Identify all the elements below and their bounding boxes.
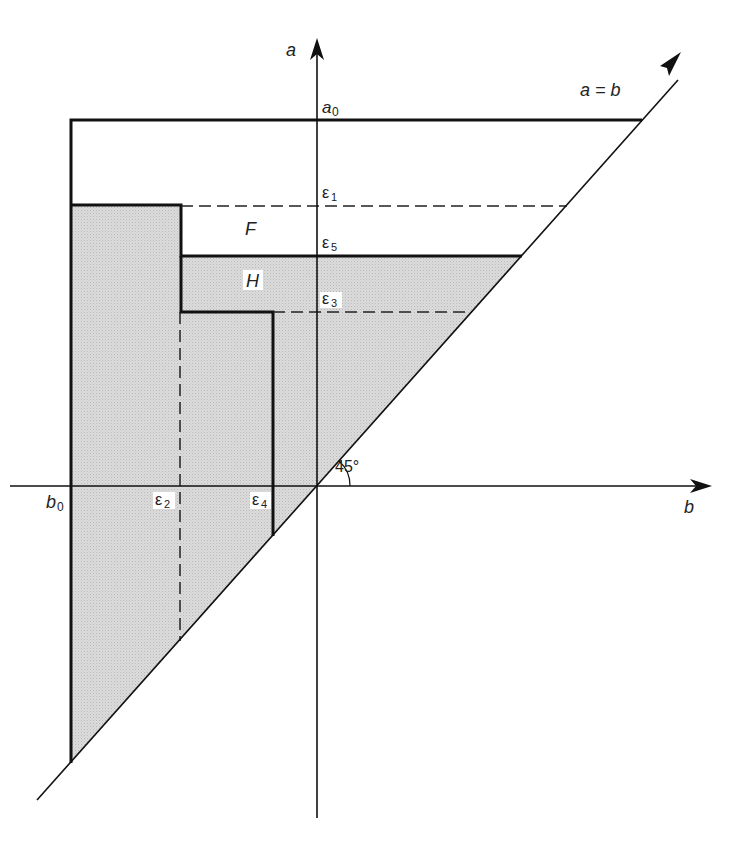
b-axis-label: b xyxy=(684,497,694,517)
shaded-region xyxy=(71,205,522,763)
region-f-label: F xyxy=(245,219,257,239)
svg-text:0: 0 xyxy=(57,500,64,514)
svg-text:ε: ε xyxy=(155,491,162,508)
svg-text:b: b xyxy=(46,492,56,512)
svg-text:3: 3 xyxy=(331,297,337,309)
svg-text:1: 1 xyxy=(331,191,337,203)
diagonal-label: a = b xyxy=(580,80,621,100)
diagram-canvas: a a = b b 45° a 0 ε 1 ε 5 ε 3 b 0 ε 2 ε … xyxy=(0,0,735,850)
svg-text:ε: ε xyxy=(252,491,259,508)
label-epsilon-2: ε 2 xyxy=(153,491,175,510)
svg-text:2: 2 xyxy=(164,498,170,510)
label-b0: b 0 xyxy=(46,492,64,514)
angle-label: 45° xyxy=(335,458,359,475)
region-h-label: H xyxy=(246,271,260,291)
svg-text:5: 5 xyxy=(331,241,337,253)
label-epsilon-1: ε 1 xyxy=(322,184,337,203)
svg-text:0: 0 xyxy=(332,105,339,119)
svg-text:ε: ε xyxy=(322,234,329,251)
label-a0: a 0 xyxy=(322,98,339,119)
a-axis-label: a xyxy=(286,40,296,60)
svg-text:ε: ε xyxy=(322,184,329,201)
label-epsilon-5: ε 5 xyxy=(322,234,337,253)
label-epsilon-4: ε 4 xyxy=(250,491,271,510)
svg-text:4: 4 xyxy=(261,498,267,510)
svg-text:a: a xyxy=(322,98,331,117)
diagonal-arrow-icon xyxy=(660,52,681,76)
label-epsilon-3: ε 3 xyxy=(320,290,342,309)
svg-text:ε: ε xyxy=(322,290,329,307)
